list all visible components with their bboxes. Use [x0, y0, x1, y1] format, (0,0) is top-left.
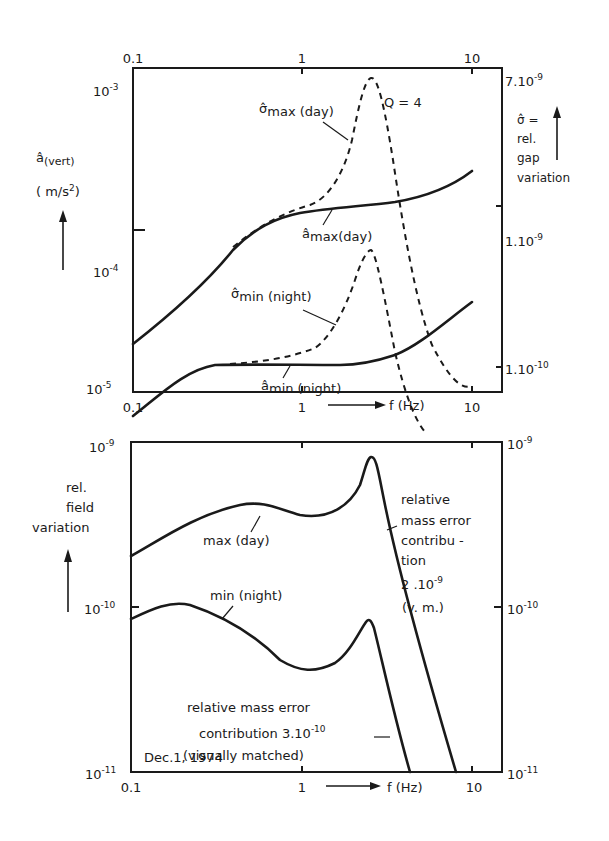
bottom-x-label-1: 1 — [298, 780, 306, 795]
bottom-y-left-label-1e-10: 10-10 — [84, 600, 116, 617]
top-y-right-axis-label-3: gap — [517, 151, 540, 165]
top-label-sigma-min-night: σ̂min (night) — [231, 286, 311, 304]
bottom-y-left-label-1e-11: 10-11 — [85, 765, 116, 782]
top-y-left-label-1e-3: 10-3 — [93, 82, 119, 99]
top-q-label: Q = 4 — [384, 95, 422, 110]
bottom-y-right-label-1e-9: 10-9 — [507, 435, 533, 452]
top-label-a-min-night: âmin (night) — [261, 378, 341, 396]
top-y-right-axis-label-1: σ̂ = — [517, 113, 538, 127]
bottom-x-arrow-icon — [370, 782, 381, 790]
top-leader-a-min — [283, 366, 290, 378]
top-x-top-label-0.1: 0.1 — [123, 51, 144, 66]
bottom-note-vm-line6: (v. m.) — [402, 600, 444, 615]
top-x-arrow-icon — [375, 401, 386, 409]
bottom-note-vm-line1: relative — [401, 492, 450, 507]
top-y-right-label-1e-10: 1.10-10 — [505, 360, 549, 377]
top-leader-sigma-max — [323, 122, 348, 140]
bottom-y-axis-label-1: rel. — [66, 480, 87, 495]
bottom-note-vm-line3: contribu - — [401, 533, 464, 548]
top-y-right-axis-label-2: rel. — [517, 132, 536, 146]
figure: 0.1 1 10 0.1 1 10 f (Hz) 10-3 10-4 10-5 … — [0, 0, 609, 841]
top-y-arrow-icon — [59, 210, 67, 222]
bottom-y-left-label-1e-9: 10-9 — [89, 438, 115, 455]
top-x-bottom-label-1: 1 — [298, 400, 306, 415]
top-x-top-label-1: 1 — [298, 51, 306, 66]
bottom-y-arrow-icon — [64, 549, 72, 562]
bottom-note-mm-line1: relative mass error — [187, 700, 311, 715]
top-x-top-label-10: 10 — [464, 51, 481, 66]
top-x-bottom-label-10: 10 — [464, 400, 481, 415]
bottom-label-min-night: min (night) — [210, 588, 282, 603]
top-y-right-label-1e-9: 1.10-9 — [505, 232, 543, 249]
top-curve-a-max-day — [133, 171, 472, 344]
bottom-y-right-label-1e-10: 10-10 — [507, 600, 539, 617]
bottom-leader-min — [222, 606, 233, 619]
top-leader-a-max — [323, 210, 332, 225]
bottom-y-right-label-1e-11: 10-11 — [507, 765, 538, 782]
bottom-note-vm-line4: tion — [401, 553, 426, 568]
top-x-bottom-label-0.1: 0.1 — [123, 400, 144, 415]
bottom-x-axis-label: f (Hz) — [387, 780, 422, 795]
bottom-curve-min-night — [131, 604, 410, 772]
top-label-a-max-day: âmax(day) — [302, 226, 372, 244]
bottom-label-max-day: max (day) — [203, 533, 270, 548]
top-y-right-axis-label-4: variation — [517, 171, 570, 185]
top-y-left-label-1e-5: 10-5 — [86, 380, 112, 397]
bottom-x-label-10: 10 — [466, 780, 483, 795]
top-y-axis-label-line1: â(vert) — [36, 150, 75, 168]
bottom-date-label: Dec.1, 1974 — [144, 750, 223, 765]
top-y-left-label-1e-4: 10-4 — [93, 263, 119, 280]
bottom-chart: 0.1 1 10 f (Hz) 10-9 10-10 10-11 10-9 10… — [32, 435, 539, 795]
bottom-x-label-0.1: 0.1 — [121, 780, 142, 795]
top-chart: 0.1 1 10 0.1 1 10 f (Hz) 10-3 10-4 10-5 … — [36, 51, 570, 432]
bottom-y-axis-label-3: variation — [32, 520, 89, 535]
top-leader-sigma-min — [303, 310, 336, 325]
top-y-right-arrow-icon — [553, 106, 561, 118]
top-x-axis-label: f (Hz) — [389, 398, 424, 413]
bottom-leader-max — [251, 516, 260, 532]
bottom-y-axis-label-2: field — [66, 500, 94, 515]
bottom-note-mm-line2: contribution 3.10-10 — [199, 724, 326, 741]
bottom-note-vm-line5: 2 .10-9 — [401, 575, 443, 592]
top-y-axis-label-line2: ( m/s2) — [36, 183, 80, 199]
top-y-right-label-7e-9: 7.10-9 — [505, 72, 543, 89]
bottom-note-vm-line2: mass error — [401, 513, 471, 528]
top-label-sigma-max-day: σ̂max (day) — [259, 101, 334, 119]
